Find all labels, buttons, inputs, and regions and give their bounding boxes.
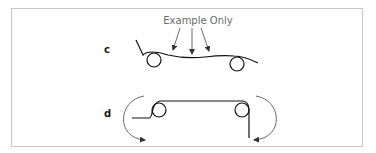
pressure-arrow-right-icon bbox=[201, 28, 209, 51]
web-line-d bbox=[132, 101, 249, 138]
curved-arrow-right-icon bbox=[254, 96, 276, 140]
pressure-arrow-left-icon bbox=[173, 28, 180, 50]
panel-c-diagram bbox=[136, 28, 258, 71]
roller-c-left-icon bbox=[147, 53, 161, 67]
roller-d-right-icon bbox=[235, 103, 249, 117]
roller-diagram bbox=[0, 0, 376, 153]
panel-d-diagram bbox=[123, 96, 276, 140]
web-line-c bbox=[136, 40, 258, 63]
roller-c-right-icon bbox=[230, 57, 244, 71]
